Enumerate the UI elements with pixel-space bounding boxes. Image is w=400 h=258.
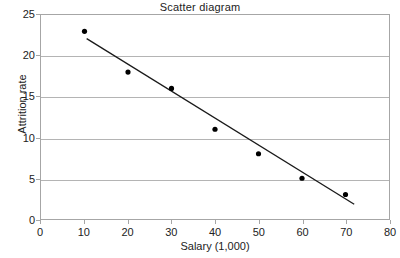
data-point — [343, 192, 348, 197]
data-point — [125, 70, 130, 75]
x-tick-mark — [259, 220, 260, 224]
x-tick-label: 70 — [326, 226, 366, 238]
x-tick-mark — [390, 220, 391, 224]
x-tick-mark — [346, 220, 347, 224]
x-tick-label: 80 — [370, 226, 400, 238]
x-tick-mark — [303, 220, 304, 224]
x-tick-mark — [84, 220, 85, 224]
data-point — [256, 151, 261, 156]
data-point — [212, 127, 217, 132]
x-tick-label: 60 — [283, 226, 323, 238]
x-tick-label: 30 — [151, 226, 191, 238]
x-tick-label: 10 — [64, 226, 104, 238]
x-tick-mark — [171, 220, 172, 224]
scatter-chart: Scatter diagram 0510152025 Attrition rat… — [0, 0, 400, 258]
y-tick-label: 0 — [0, 214, 40, 226]
x-tick-mark — [128, 220, 129, 224]
x-tick-label: 20 — [108, 226, 148, 238]
x-axis-title: Salary (1,000) — [40, 240, 390, 252]
data-layer — [41, 15, 389, 219]
y-tick-label: 25 — [0, 8, 40, 20]
x-tick-label: 0 — [20, 226, 60, 238]
data-point — [169, 86, 174, 91]
y-tick-label: 5 — [0, 173, 40, 185]
data-point — [82, 29, 87, 34]
x-tick-label: 40 — [195, 226, 235, 238]
chart-title: Scatter diagram — [0, 1, 400, 13]
x-tick-label: 50 — [239, 226, 279, 238]
data-point — [299, 176, 304, 181]
y-axis-title: Attrition rate — [16, 34, 28, 174]
x-tick-mark — [40, 220, 41, 224]
plot-area — [40, 14, 390, 220]
x-tick-mark — [215, 220, 216, 224]
trend-line — [87, 39, 355, 205]
